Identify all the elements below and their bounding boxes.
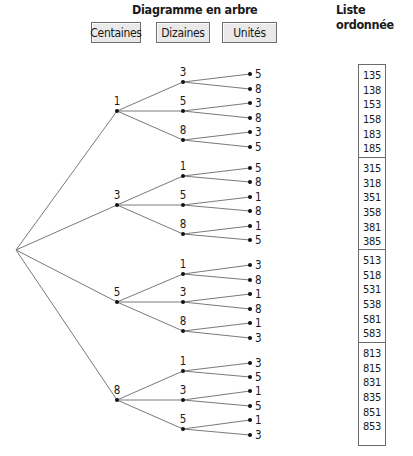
units-digit-label: 8 [255, 111, 262, 125]
units-digit-label: 5 [255, 233, 262, 247]
tree-node-dot [181, 138, 185, 142]
tree-branch [183, 234, 250, 240]
list-group: 135138153158183185 [359, 65, 385, 158]
list-group: 813815831835851853 [359, 343, 385, 445]
ordered-list: 1351381531581831853153183513583813855135… [358, 64, 386, 446]
list-item: 581 [359, 313, 385, 328]
units-digit-label: 1 [255, 287, 262, 301]
tree-branch [183, 226, 250, 234]
tree-node-dot [248, 130, 252, 134]
tree-node-dot [181, 174, 185, 178]
tree-node-dot [248, 224, 252, 228]
list-item: 381 [359, 221, 385, 236]
hundreds-digit-label: 3 [114, 188, 121, 202]
list-item: 135 [359, 69, 385, 84]
tree-branch [183, 400, 250, 406]
tree-branch [183, 429, 250, 435]
tens-digit-label: 3 [180, 285, 187, 299]
tree-node-dot [181, 203, 185, 207]
tree-branch [117, 176, 183, 205]
list-item: 518 [359, 269, 385, 284]
tree-branch [183, 197, 250, 205]
tree-branch [183, 132, 250, 140]
tree-branch [183, 176, 250, 182]
list-item: 138 [359, 84, 385, 99]
tree-node-dot [248, 278, 252, 282]
tens-digit-label: 1 [180, 257, 187, 271]
tree-branch [117, 205, 183, 234]
units-digit-label: 8 [255, 273, 262, 287]
tree-branch [183, 274, 250, 280]
tree-node-dot [248, 336, 252, 340]
tree-node-dot [115, 398, 119, 402]
hundreds-digit-label: 8 [114, 383, 121, 397]
units-digit-label: 3 [255, 258, 262, 272]
tree-branch [183, 168, 250, 176]
tree-node-dot [248, 404, 252, 408]
tree-node-dot [181, 427, 185, 431]
tens-digit-label: 3 [180, 383, 187, 397]
tree-branch [183, 294, 250, 302]
units-digit-label: 3 [255, 356, 262, 370]
units-digit-label: 5 [255, 399, 262, 413]
units-digit-label: 1 [255, 219, 262, 233]
units-digit-label: 8 [255, 175, 262, 189]
tens-digit-label: 5 [180, 188, 187, 202]
tree-node-dot [181, 398, 185, 402]
tree-branch [183, 205, 250, 211]
tens-digit-label: 1 [180, 159, 187, 173]
tree-node-dot [181, 272, 185, 276]
tree-branch [117, 82, 183, 111]
list-item: 351 [359, 191, 385, 206]
units-digit-label: 3 [255, 428, 262, 442]
units-digit-label: 8 [255, 82, 262, 96]
list-group: 315318351358381385 [359, 158, 385, 250]
units-digit-label: 5 [255, 67, 262, 81]
tree-branch [117, 274, 183, 302]
tree-node-dot [115, 109, 119, 113]
tens-digit-label: 5 [180, 94, 187, 108]
tree-node-dot [248, 389, 252, 393]
tree-branch [117, 371, 183, 400]
tree-node-dot [248, 418, 252, 422]
tree-branch [183, 323, 250, 331]
tree-node-dot [248, 292, 252, 296]
tree-branch [183, 363, 250, 371]
tree-branch [117, 400, 183, 429]
list-item: 315 [359, 162, 385, 177]
tree-branch [183, 371, 250, 377]
list-item: 853 [359, 420, 385, 435]
tens-digit-label: 5 [180, 412, 187, 426]
hundreds-digit-label: 1 [114, 94, 121, 108]
list-item: 513 [359, 254, 385, 269]
tree-node-dot [248, 263, 252, 267]
tree-node-dot [248, 361, 252, 365]
hundreds-digit-label: 5 [114, 285, 121, 299]
units-digit-label: 5 [255, 140, 262, 154]
tens-digit-label: 8 [180, 217, 187, 231]
tree-branch [183, 420, 250, 429]
list-item: 318 [359, 177, 385, 192]
list-item: 185 [359, 142, 385, 157]
list-item: 813 [359, 347, 385, 362]
tree-node-dot [181, 232, 185, 236]
tree-branch [183, 74, 250, 82]
units-digit-label: 3 [255, 331, 262, 345]
tree-node-dot [248, 101, 252, 105]
tree-node-dot [248, 321, 252, 325]
tree-branch [183, 103, 250, 111]
tree-node-dot [248, 307, 252, 311]
list-item: 385 [359, 235, 385, 250]
tree-node-dot [248, 375, 252, 379]
units-digit-label: 5 [255, 161, 262, 175]
list-item: 153 [359, 98, 385, 113]
list-item: 358 [359, 206, 385, 221]
tree-branch [16, 111, 117, 250]
list-item: 183 [359, 128, 385, 143]
tree-branch [16, 250, 117, 400]
tree-node-dot [248, 166, 252, 170]
list-item: 835 [359, 391, 385, 406]
units-digit-label: 1 [255, 190, 262, 204]
tree-branch [16, 250, 117, 302]
units-digit-label: 1 [255, 413, 262, 427]
